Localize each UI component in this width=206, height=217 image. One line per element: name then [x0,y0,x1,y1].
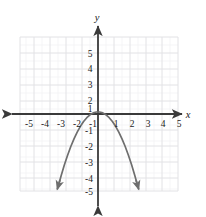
x-tick-label: -3 [57,119,65,129]
x-tick-label: 1 [114,119,119,129]
x-tick-label: 4 [161,119,166,129]
x-tick-label: 3 [146,119,151,129]
y-tick-label: 3 [88,80,93,90]
x-tick-label: -5 [25,119,33,129]
y-tick-label: -5 [85,187,93,197]
x-tick-label: -4 [41,119,49,129]
coordinate-plane: x y -5 -4 -3 -2 -1 1 2 3 4 5 5 4 3 2 1 -… [0,0,206,217]
graph-figure: x y -5 -4 -3 -2 -1 1 2 3 4 5 5 4 3 2 1 -… [0,0,206,217]
x-tick-label: -2 [73,119,81,129]
y-tick-label: 1 [88,104,93,114]
parabola-right-arrow [136,180,139,190]
y-tick-label: -4 [85,174,93,184]
y-axis-label: y [94,12,100,23]
y-tick-label: -2 [85,142,93,152]
y-tick-label: -3 [85,158,93,168]
x-tick-label: 2 [130,119,135,129]
y-tick-label: -1 [85,126,93,136]
x-axis-label: x [185,109,191,120]
parabola-left-arrow [57,180,60,190]
y-tick-label: 5 [88,49,93,59]
y-tick-label: 4 [88,64,93,74]
x-tick-labels: -5 -4 -3 -2 -1 1 2 3 4 5 [25,119,182,129]
x-tick-label: 5 [177,119,182,129]
